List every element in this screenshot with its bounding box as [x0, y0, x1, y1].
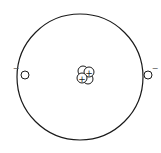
electron-right-charge: − [152, 64, 159, 73]
electron-left-circle [21, 71, 29, 79]
nucleus: + + [77, 66, 94, 84]
electron-right: − [144, 64, 158, 79]
helium-atom-diagram: + + − − [0, 0, 161, 153]
electron-left: − [13, 64, 29, 79]
electron-left-charge: − [13, 64, 20, 73]
proton-2-charge: + [78, 74, 86, 84]
